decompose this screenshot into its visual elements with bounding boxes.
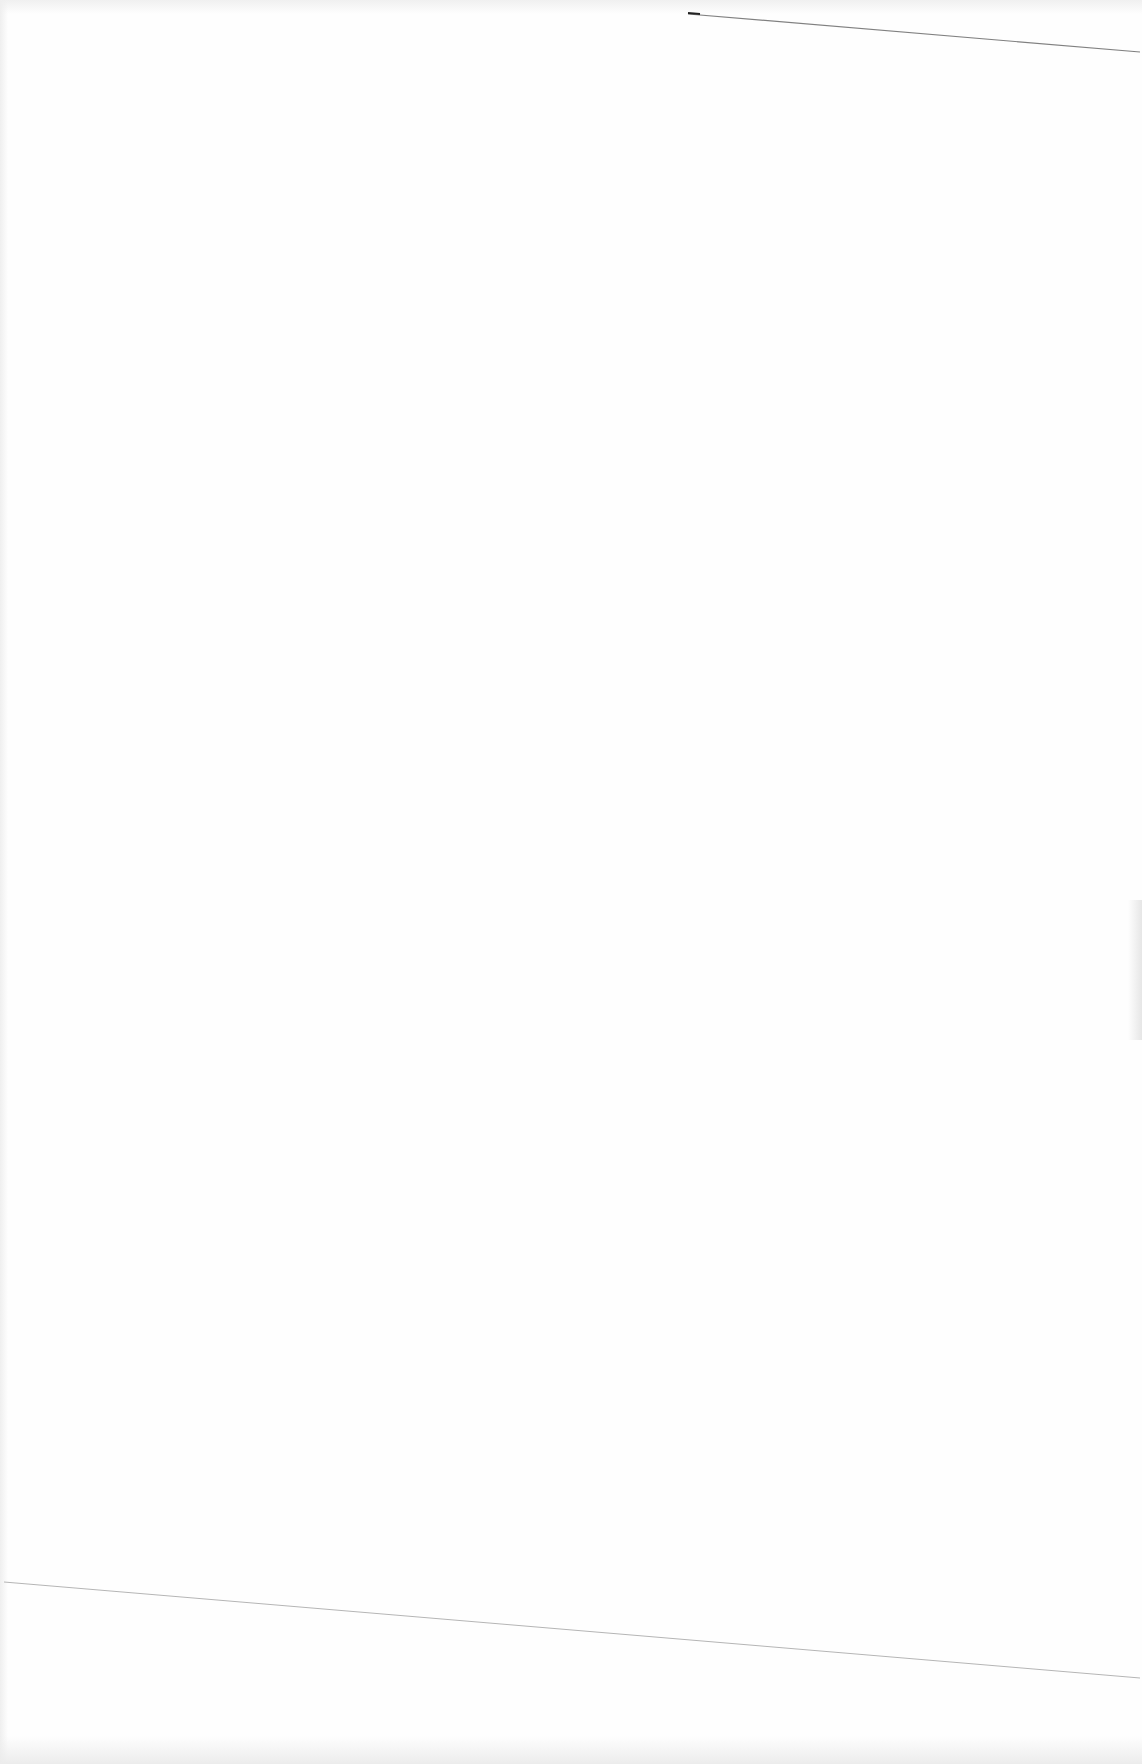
blank-page: [0, 0, 1142, 1764]
scan-artifact-lines: [0, 0, 1142, 1764]
bottom-scan-line: [4, 1582, 1140, 1678]
top-scan-line: [688, 14, 1140, 52]
top-scan-line-mark: [688, 13, 700, 14]
